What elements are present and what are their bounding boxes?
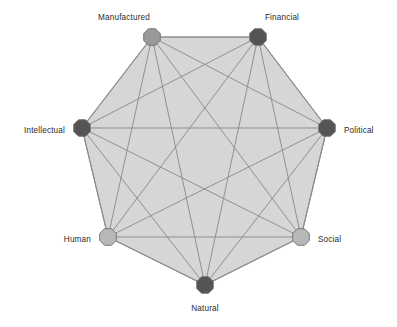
node-label-intellectual: Intellectual xyxy=(24,126,65,135)
node-label-political: Political xyxy=(344,126,374,135)
node-manufactured[interactable] xyxy=(144,29,161,46)
node-marker-financial[interactable] xyxy=(250,29,267,46)
node-marker-intellectual[interactable] xyxy=(74,120,91,137)
node-marker-natural[interactable] xyxy=(197,277,214,294)
node-label-human: Human xyxy=(64,235,91,244)
node-human[interactable] xyxy=(100,229,117,246)
node-natural[interactable] xyxy=(197,277,214,294)
node-marker-social[interactable] xyxy=(293,229,310,246)
node-social[interactable] xyxy=(293,229,310,246)
node-marker-human[interactable] xyxy=(100,229,117,246)
node-label-social: Social xyxy=(318,235,341,244)
node-political[interactable] xyxy=(319,120,336,137)
node-financial[interactable] xyxy=(250,29,267,46)
capitals-diagram: ManufacturedFinancialPoliticalSocialNatu… xyxy=(0,0,397,327)
node-label-manufactured: Manufactured xyxy=(98,13,150,22)
capitals-octagon-svg: ManufacturedFinancialPoliticalSocialNatu… xyxy=(0,0,397,327)
node-label-natural: Natural xyxy=(191,304,218,313)
node-intellectual[interactable] xyxy=(74,120,91,137)
node-marker-political[interactable] xyxy=(319,120,336,137)
node-marker-manufactured[interactable] xyxy=(144,29,161,46)
node-label-financial: Financial xyxy=(265,13,299,22)
